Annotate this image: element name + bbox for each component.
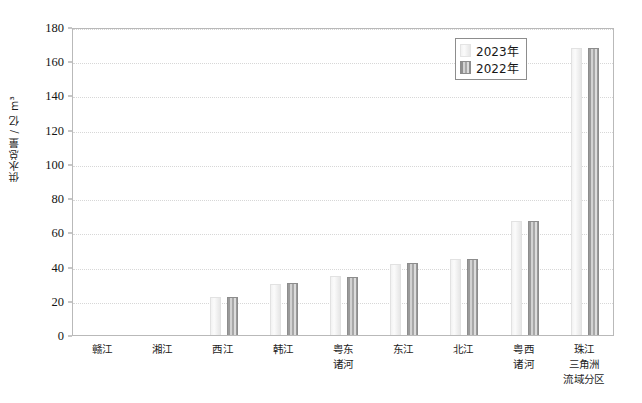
x-axis-tick-label-line: 诸河 xyxy=(313,357,373,372)
x-axis-tick-label-line: 赣江 xyxy=(72,342,132,357)
bar-group xyxy=(555,29,615,335)
y-axis-tick-label: 60 xyxy=(52,226,65,241)
y-axis-tick-group: 020406080100120140160180 xyxy=(0,0,72,403)
bar[interactable] xyxy=(528,221,539,335)
bar[interactable] xyxy=(571,48,582,335)
y-axis-tick-label: 0 xyxy=(58,329,64,344)
x-axis-tick-label: 西江 xyxy=(192,342,252,357)
bar[interactable] xyxy=(407,263,418,335)
x-axis-tick-label: 粤东诸河 xyxy=(313,342,373,372)
x-axis-tick-label: 韩江 xyxy=(253,342,313,357)
y-axis-tick-label: 80 xyxy=(52,192,65,207)
x-axis-tick-label-line: 珠江 xyxy=(554,342,614,357)
bar[interactable] xyxy=(227,297,238,336)
x-axis-tick-label-line: 西江 xyxy=(192,342,252,357)
x-axis-title: 流域分区 xyxy=(541,372,627,387)
legend-item[interactable]: 2023年 xyxy=(460,42,519,59)
x-axis-tick-label: 珠江三角洲 xyxy=(554,342,614,372)
x-axis-tick-group: 赣江湘江西江韩江粤东诸河东江北江粤西诸河珠江三角洲 xyxy=(72,342,614,400)
bar-group xyxy=(374,29,434,335)
bar[interactable] xyxy=(210,297,221,335)
chart-root: 供水总量 / 亿 m³ 020406080100120140160180 202… xyxy=(0,0,642,403)
x-axis-tick-label-line: 粤东 xyxy=(313,342,373,357)
bar[interactable] xyxy=(287,283,298,335)
x-axis-tick-label-line: 北江 xyxy=(433,342,493,357)
x-axis-tick-label: 东江 xyxy=(373,342,433,357)
legend-swatch-icon xyxy=(460,44,471,57)
y-axis-tick-label: 160 xyxy=(45,55,64,70)
x-axis-tick-label: 北江 xyxy=(433,342,493,357)
x-axis-tick-label: 粤西诸河 xyxy=(494,342,554,372)
bar-group xyxy=(73,29,133,335)
bar[interactable] xyxy=(511,221,522,335)
bar[interactable] xyxy=(450,259,461,335)
bars-layer xyxy=(73,29,613,335)
y-axis-tick-label: 140 xyxy=(45,89,64,104)
y-axis-tick-label: 20 xyxy=(52,294,65,309)
bar-group xyxy=(133,29,193,335)
x-axis-tick-label-line: 三角洲 xyxy=(554,357,614,372)
bar[interactable] xyxy=(588,48,599,335)
y-axis-tick-label: 180 xyxy=(45,21,64,36)
y-axis-tick-label: 40 xyxy=(52,260,65,275)
legend-label: 2023年 xyxy=(476,42,519,59)
legend-swatch-icon xyxy=(460,61,471,74)
bar-group xyxy=(314,29,374,335)
bar[interactable] xyxy=(467,259,478,335)
x-axis-tick-label-line: 东江 xyxy=(373,342,433,357)
bar[interactable] xyxy=(270,284,281,335)
plot-area xyxy=(72,28,614,336)
x-axis-tick-label-line: 诸河 xyxy=(494,357,554,372)
bar[interactable] xyxy=(347,277,358,335)
x-axis-tick-label-line: 湘江 xyxy=(132,342,192,357)
x-axis-tick-label-line: 韩江 xyxy=(253,342,313,357)
x-axis-tick-label: 湘江 xyxy=(132,342,192,357)
legend-label: 2022年 xyxy=(476,59,519,76)
y-axis-tick-label: 100 xyxy=(45,157,64,172)
legend-item[interactable]: 2022年 xyxy=(460,59,519,76)
bar[interactable] xyxy=(330,276,341,335)
bar-group xyxy=(193,29,253,335)
bar[interactable] xyxy=(390,264,401,335)
x-axis-tick-label: 赣江 xyxy=(72,342,132,357)
bar-group xyxy=(254,29,314,335)
y-axis-tick-label: 120 xyxy=(45,123,64,138)
chart-legend: 2023年2022年 xyxy=(455,38,527,80)
x-axis-tick-label-line: 粤西 xyxy=(494,342,554,357)
